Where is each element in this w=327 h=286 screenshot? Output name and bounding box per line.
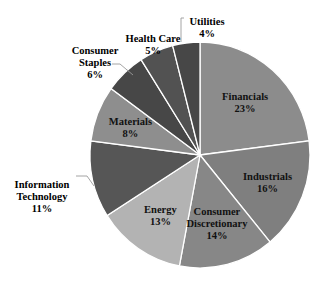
- pie-slices: [90, 42, 310, 268]
- slice-name: Consumer: [194, 206, 241, 217]
- slice-percent: 16%: [257, 183, 278, 194]
- slice-name: Health Care: [126, 33, 181, 44]
- pie-chart: Financials23%Industrials16%ConsumerDiscr…: [0, 0, 327, 286]
- slice-percent: 6%: [87, 69, 103, 80]
- slice-name: Technology: [17, 191, 69, 202]
- slice-percent: 14%: [206, 230, 227, 241]
- slice-label-consumer-staples: ConsumerStaples6%: [72, 45, 119, 80]
- slice-name: Materials: [109, 116, 152, 127]
- slice-name: Financials: [222, 91, 268, 102]
- slice-label-information-technology: InformationTechnology11%: [15, 179, 70, 214]
- slice-name: Energy: [144, 204, 177, 215]
- slice-name: Utilities: [190, 16, 225, 27]
- slice-name: Discretionary: [186, 218, 248, 229]
- slice-name: Staples: [79, 57, 111, 68]
- slice-label-utilities: Utilities4%: [190, 16, 225, 39]
- slice-percent: 8%: [123, 128, 139, 139]
- slice-name: Consumer: [72, 45, 119, 56]
- slice-name: Information: [15, 179, 70, 190]
- slice-percent: 23%: [235, 103, 256, 114]
- slice-percent: 11%: [32, 203, 52, 214]
- slice-percent: 5%: [145, 45, 161, 56]
- slice-percent: 4%: [199, 28, 215, 39]
- leader-line-utilities: [181, 18, 184, 42]
- leader-line-information-technology: [76, 176, 94, 186]
- slice-percent: 13%: [150, 216, 171, 227]
- slice-name: Industrials: [243, 171, 292, 182]
